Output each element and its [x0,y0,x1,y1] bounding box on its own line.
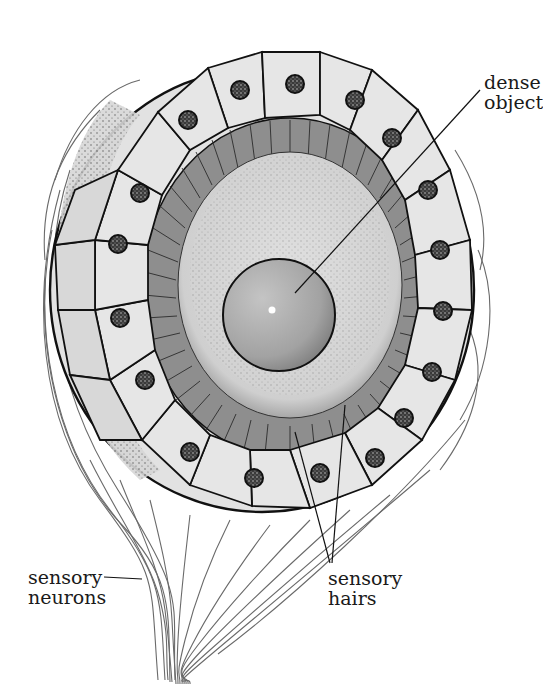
label-sensory-neurons-line2: neurons [28,587,106,607]
label-sensory-neurons: sensory neurons [28,567,106,607]
label-dense-object-line1: dense [484,72,543,92]
label-dense-object-line2: object [484,92,543,112]
dense-object [223,259,335,371]
label-sensory-hairs: sensory hairs [328,568,402,608]
label-sensory-hairs-line2: hairs [328,588,402,608]
label-sensory-hairs-line1: sensory [328,568,402,588]
label-dense-object: dense object [484,72,543,112]
label-sensory-neurons-line1: sensory [28,567,106,587]
leader-sensory-neurons [104,577,142,579]
